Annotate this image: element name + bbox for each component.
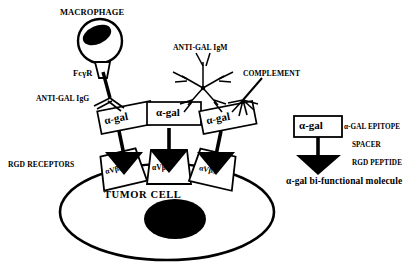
macrophage-cell-icon xyxy=(78,19,122,63)
label-macrophage: MACROPHAGE xyxy=(60,8,124,17)
diagram-canvas: MACROPHAGE FсγR ANTI-GAL IgG ANTI-GAL Ig… xyxy=(0,0,420,265)
label-complement: COMPLEMENT xyxy=(243,70,300,78)
nucleus-icon xyxy=(144,199,206,239)
label-anti-gal-igg: ANTI-GAL IgG xyxy=(36,95,89,103)
diagram-vector-layer xyxy=(0,0,420,265)
legend-rgd-arrowhead-icon xyxy=(296,155,341,175)
legend-epitope-label: α-GAL EPITOPE xyxy=(344,124,400,132)
avb3-receptor-2-label: αVβ3 xyxy=(152,163,170,172)
label-anti-gal-igm: ANTI-GAL IgM xyxy=(173,44,228,52)
agal-box-legend-label: α-gal xyxy=(299,119,323,131)
label-fc-gamma-receptor: FсγR xyxy=(73,69,92,78)
label-rgd-receptors: RGD RECEPTORS xyxy=(8,161,74,169)
legend-spacer-label: SPACER xyxy=(352,142,381,150)
legend-caption: α-gal bi-functional molecule xyxy=(286,176,414,187)
label-tumor-cell: TUMOR CELL xyxy=(104,189,181,200)
agal-box-2-label: α-gal xyxy=(156,106,180,118)
igm-pentamer-star-icon xyxy=(173,53,233,112)
complement-fan-icon xyxy=(228,78,262,116)
legend-rgd-peptide-label: RGD PEPTIDE xyxy=(352,160,402,168)
